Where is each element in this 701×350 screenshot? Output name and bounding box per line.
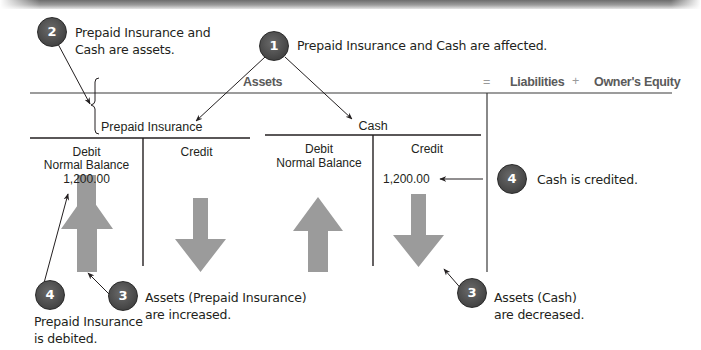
step-badge-3-cash: 3 xyxy=(457,278,487,308)
pointer-1-to-cash xyxy=(285,57,352,119)
prepaid-debit-normal-balance: Normal Balance xyxy=(30,158,143,173)
liabilities-header: Liabilities xyxy=(510,75,564,89)
step-badge-1: 1 xyxy=(259,31,289,61)
t-account-cash-title: Cash xyxy=(265,119,481,134)
step-badge-2: 2 xyxy=(37,17,67,47)
callout-3-cash-line-1: Assets (Cash) xyxy=(494,289,577,306)
callout-4-prepaid-line-1: Prepaid Insurance xyxy=(34,313,143,330)
cash-debit-label: Debit xyxy=(265,142,373,157)
plus-sign: + xyxy=(572,74,579,88)
callout-1-text: Prepaid Insurance and Cash are affected. xyxy=(297,37,547,54)
callout-4-prepaid-line-2: is debited. xyxy=(34,330,97,347)
equals-sign: = xyxy=(483,75,490,89)
assets-header: Assets xyxy=(243,75,282,89)
pointer-1-to-prepaid xyxy=(196,57,265,121)
callout-4-cash-text: Cash is credited. xyxy=(537,171,638,188)
callout-2-line-2: Cash are assets. xyxy=(75,41,175,58)
step-badge-4-prepaid: 4 xyxy=(35,280,65,310)
callout-2-line-1: Prepaid Insurance and xyxy=(75,24,210,41)
pointer-3-to-up-arrow xyxy=(88,273,110,295)
cash-debit-normal-balance: Normal Balance xyxy=(265,156,373,171)
brace xyxy=(91,78,99,134)
step-badge-4-cash: 4 xyxy=(497,164,527,194)
pointer-4-to-prepaid-debit xyxy=(44,194,68,283)
cash-credit-value: 1,200.00 xyxy=(383,172,430,187)
callout-3-prepaid-line-1: Assets (Prepaid Insurance) xyxy=(145,289,306,306)
t-account-prepaid-title: Prepaid Insurance xyxy=(101,120,202,135)
callout-3-cash-line-2: are decreased. xyxy=(494,306,584,323)
step-badge-3-prepaid: 3 xyxy=(108,281,138,311)
arrow-down-cash-credit xyxy=(393,194,444,267)
prepaid-credit-label: Credit xyxy=(143,145,250,160)
arrow-up-cash-debit xyxy=(293,197,343,272)
owners-equity-header: Owner's Equity xyxy=(594,75,680,89)
callout-3-prepaid-line-2: are increased. xyxy=(145,306,231,323)
arrow-up-prepaid-debit xyxy=(61,192,113,272)
cash-credit-label: Credit xyxy=(373,142,481,157)
arrow-down-prepaid-credit xyxy=(175,198,226,272)
prepaid-debit-value: 1,200.00 xyxy=(30,172,143,187)
